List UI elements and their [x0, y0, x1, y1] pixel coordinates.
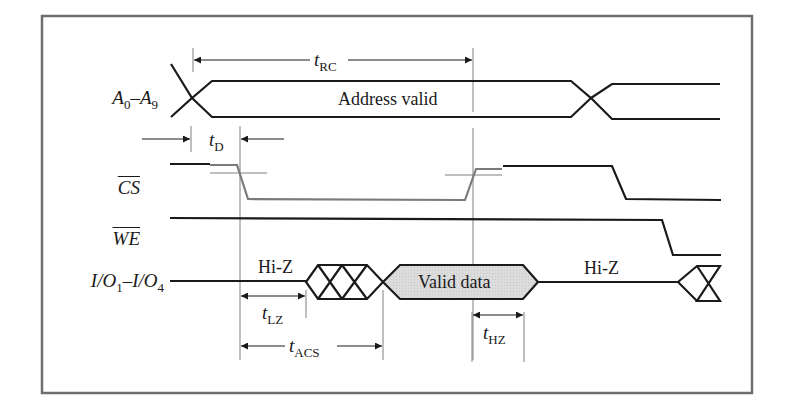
we-waveform: [170, 218, 721, 255]
sram-read-timing-diagram: A0–A9 CS WE I/O1–I/O4 Address valid Hi-Z…: [0, 0, 786, 415]
t-acs-label: tACS: [289, 336, 320, 359]
address-valid-label: Address valid: [338, 90, 437, 108]
hi-z-label-2: Hi-Z: [584, 259, 619, 277]
address-bus-waveform: [171, 64, 720, 119]
signal-label-cs: CS: [100, 178, 140, 197]
t-lz-label: tLZ: [262, 303, 283, 326]
valid-data-label: Valid data: [418, 273, 490, 291]
signal-label-address: A0–A9: [90, 88, 158, 111]
cs-waveform: [170, 164, 721, 200]
hi-z-label-1: Hi-Z: [258, 258, 293, 276]
t-hz-label: tHZ: [483, 323, 506, 346]
signal-label-we: WE: [100, 229, 140, 248]
timing-arrows: [142, 60, 523, 346]
timing-diagram-canvas: [0, 0, 786, 415]
signal-label-io: I/O1–I/O4: [60, 271, 164, 294]
t-d-label: tD: [209, 130, 224, 153]
diagram-frame: [42, 16, 752, 393]
t-rc-label: tRC: [314, 50, 337, 73]
